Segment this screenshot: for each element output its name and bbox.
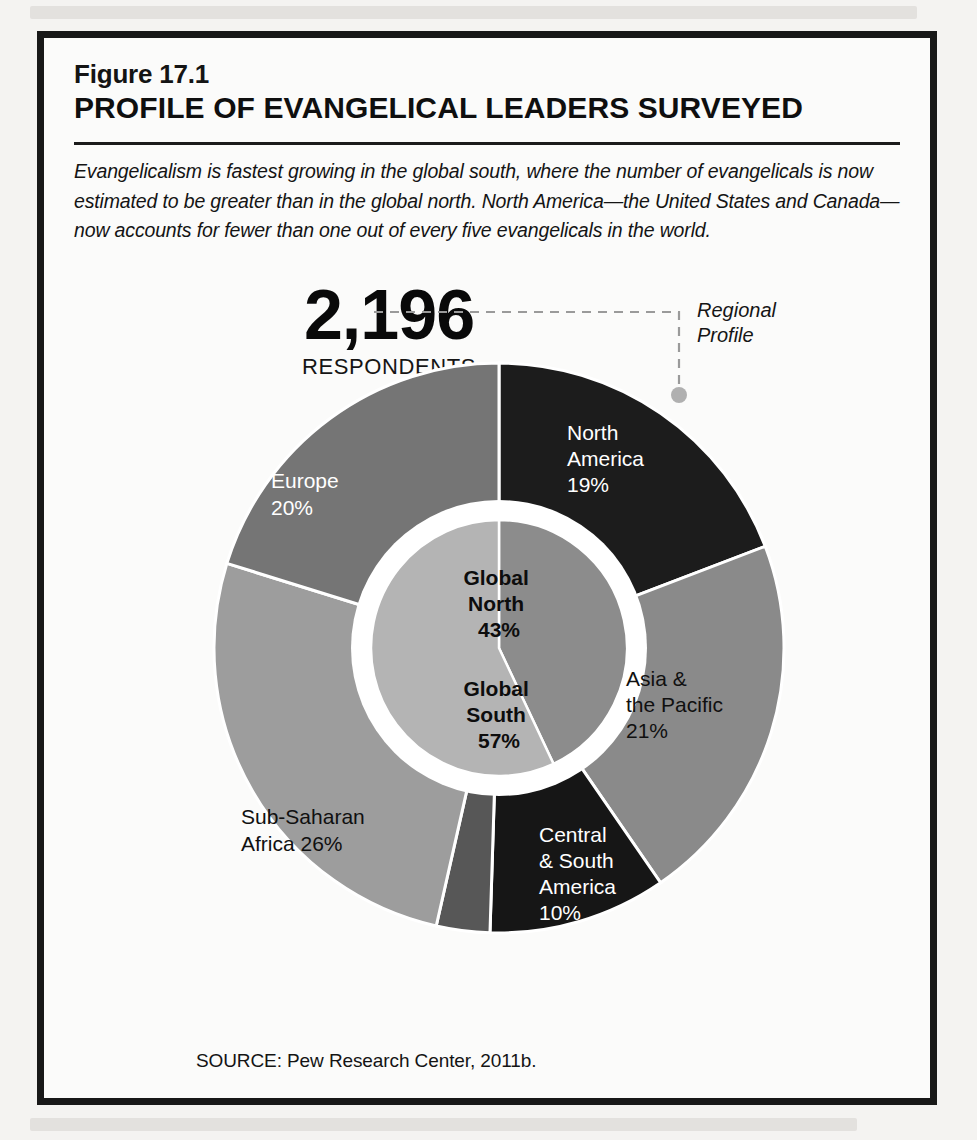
donut-chart: North America 19% Asia & the Pacific 21%… <box>199 348 799 948</box>
figure-box: Figure 17.1 PROFILE OF EVANGELICAL LEADE… <box>37 31 937 1105</box>
label-global-south-l1: Global <box>463 677 528 700</box>
label-sub-saharan-africa-l1: Sub-Saharan <box>241 805 365 828</box>
regional-profile-callout: Regional Profile <box>697 298 776 348</box>
label-north-america-l1: North <box>567 421 618 444</box>
label-global-south-l2: South <box>466 703 525 726</box>
label-asia-pacific-l3: 21% <box>626 719 668 742</box>
label-sub-saharan-africa-l2: Africa 26% <box>241 832 343 855</box>
label-central-south-america-l3: America <box>539 875 616 898</box>
label-central-south-america-l2: & South <box>539 849 614 872</box>
respondents-count: 2,196 <box>264 282 514 349</box>
source-note: SOURCE: Pew Research Center, 2011b. <box>196 1050 536 1072</box>
chart-area: 2,196 RESPONDENTS Regional Profile <box>74 260 914 1050</box>
label-asia-pacific-l2: the Pacific <box>626 693 723 716</box>
figure-number: Figure 17.1 <box>74 60 900 89</box>
callout-line-2: Profile <box>697 323 776 348</box>
label-north-america-l2: America <box>567 447 644 470</box>
title-divider <box>74 142 900 145</box>
label-global-north-l3: 43% <box>478 618 520 641</box>
figure-description: Evangelicalism is fastest growing in the… <box>74 157 900 246</box>
label-europe-l1: Europe <box>271 469 339 492</box>
label-global-north-l1: Global <box>463 566 528 589</box>
figure-title: PROFILE OF EVANGELICAL LEADERS SURVEYED <box>74 91 900 124</box>
label-asia-pacific-l1: Asia & <box>626 667 687 690</box>
label-europe-l2: 20% <box>271 496 313 519</box>
label-central-south-america-l4: 10% <box>539 901 581 924</box>
callout-line-1: Regional <box>697 298 776 323</box>
label-global-north-l2: North <box>468 592 524 615</box>
label-global-south-l3: 57% <box>478 729 520 752</box>
label-north-america-l3: 19% <box>567 473 609 496</box>
label-central-south-america-l1: Central <box>539 823 607 846</box>
